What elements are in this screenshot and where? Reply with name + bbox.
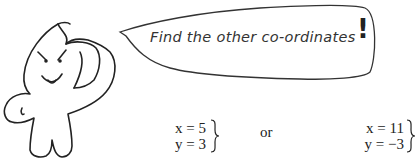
solution-1-x: x = 5 — [140, 120, 206, 136]
right-brace-icon — [405, 118, 417, 154]
solution-2-y: y = −3 — [340, 136, 404, 152]
solution-1: x = 5 y = 3 — [140, 120, 206, 152]
speech-bubble-text: Find the other co-ordinates — [150, 29, 356, 45]
separator-or: or — [260, 124, 273, 141]
saluting-cartoon-character-icon — [4, 23, 115, 158]
solution-1-y: y = 3 — [140, 136, 206, 152]
right-brace-icon — [209, 118, 221, 154]
solution-2: x = 11 y = −3 — [340, 120, 404, 152]
solution-2-x: x = 11 — [340, 120, 404, 136]
exclamation-mark: ! — [357, 14, 369, 44]
